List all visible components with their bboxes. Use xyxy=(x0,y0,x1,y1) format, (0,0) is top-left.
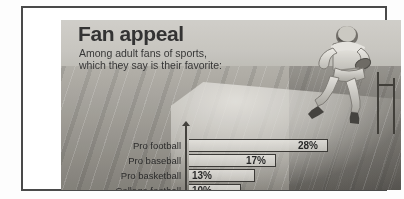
table-row: Pro baseball 17% xyxy=(61,154,401,168)
bar-value: 10% xyxy=(192,184,212,190)
subtitle-line-1: Among adult fans of sports, xyxy=(79,47,222,59)
table-row: Pro football 28% xyxy=(61,139,401,153)
infographic-image: Fan appeal Among adult fans of sports, w… xyxy=(61,20,401,190)
clipping-frame: Fan appeal Among adult fans of sports, w… xyxy=(21,6,387,191)
subtitle: Among adult fans of sports, which they s… xyxy=(79,47,222,71)
bar-value: 13% xyxy=(192,169,212,182)
bar-label: Pro basketball xyxy=(61,169,181,183)
bar-label: Pro baseball xyxy=(61,154,181,168)
bar-label: College football xyxy=(61,184,181,190)
subtitle-line-2: which they say is their favorite: xyxy=(79,59,222,71)
table-row: College football 10% xyxy=(61,184,401,190)
page-title: Fan appeal xyxy=(78,23,184,44)
bar-value: 28% xyxy=(298,139,318,152)
table-row: Pro basketball 13% xyxy=(61,169,401,183)
bar-chart: Pro football 28% Pro baseball 17% Pro ba… xyxy=(61,120,401,190)
page-background: Fan appeal Among adult fans of sports, w… xyxy=(0,0,404,199)
bar-label: Pro football xyxy=(61,139,181,153)
bar-value: 17% xyxy=(246,154,266,167)
